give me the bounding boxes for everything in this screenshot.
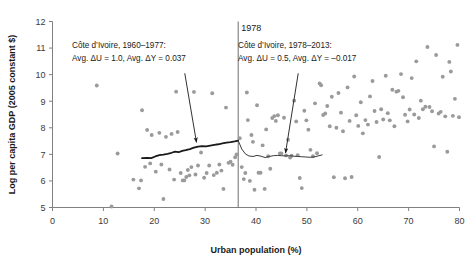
- scatter-point: [235, 152, 239, 156]
- y-tick-label-6: 6: [40, 176, 45, 186]
- scatter-point: [255, 103, 259, 107]
- x-tick-label-10: 10: [98, 216, 108, 226]
- scatter-point: [154, 170, 158, 174]
- scatter-point: [210, 91, 214, 95]
- x-tick-label-40: 40: [251, 216, 261, 226]
- scatter-point: [294, 119, 298, 123]
- scatter-point: [412, 113, 416, 117]
- scatter-point: [309, 148, 313, 152]
- scatter-point: [319, 83, 323, 87]
- scatter-point: [449, 70, 453, 74]
- scatter-point: [116, 152, 120, 156]
- scatter-point: [447, 60, 451, 64]
- scatter-point: [276, 113, 280, 117]
- scatter-point: [268, 167, 272, 171]
- scatter-point: [306, 128, 310, 132]
- scatter-point: [140, 108, 144, 112]
- scatter-point: [343, 176, 347, 180]
- scatter-point: [361, 131, 365, 135]
- scatter-point: [392, 124, 396, 128]
- scatter-point: [139, 178, 143, 182]
- scatter-point: [406, 119, 410, 123]
- scatter-point: [251, 140, 255, 144]
- scatter-point: [243, 171, 247, 175]
- scatter-point: [445, 150, 449, 154]
- scatter-point: [202, 176, 206, 180]
- scatter-point: [373, 109, 377, 113]
- scatter-point: [157, 131, 161, 135]
- right-annotation-arrow: [286, 73, 299, 153]
- scatter-point: [110, 205, 114, 209]
- scatter-point: [414, 59, 418, 63]
- scatter-point: [187, 173, 191, 177]
- scatter-point: [410, 76, 414, 80]
- scatter-point: [145, 128, 149, 132]
- scatter-point: [159, 163, 163, 167]
- scatter-point: [381, 118, 385, 122]
- scatter-point: [143, 165, 147, 169]
- scatter-point: [205, 171, 209, 175]
- scatter-point: [280, 152, 284, 156]
- scatter-point: [453, 97, 457, 101]
- scatter-point: [341, 129, 345, 133]
- x-tick-label-20: 20: [149, 216, 159, 226]
- scatter-point: [263, 187, 267, 191]
- scatter-point: [298, 176, 302, 180]
- scatter-point: [168, 168, 172, 172]
- scatter-point: [131, 178, 135, 182]
- x-tick-label-70: 70: [404, 216, 414, 226]
- scatter-point: [315, 151, 319, 155]
- divider-label-1978: 1978: [241, 23, 261, 33]
- scatter-point: [261, 143, 265, 147]
- scatter-point: [248, 179, 252, 183]
- scatter-point: [443, 114, 447, 118]
- scatter-point: [336, 91, 340, 95]
- scatter-point: [238, 136, 242, 140]
- scatter-point: [356, 124, 360, 128]
- scatter-point: [426, 45, 430, 49]
- scatter-point: [434, 53, 438, 57]
- scatter-point: [240, 165, 244, 169]
- scatter-point: [164, 135, 168, 139]
- scatter-point: [328, 124, 332, 128]
- scatter-point: [346, 85, 350, 89]
- scatter-chart: 5678910111201020304050607080Urban popula…: [0, 0, 466, 261]
- right-annotation-line1: Côte d’Ivoire, 1978–2013:: [238, 41, 332, 50]
- right-annotation-line2: Avg. ΔU = 0.5, Avg. ΔY = –0.017: [238, 54, 357, 63]
- scatter-point: [282, 116, 286, 120]
- scatter-point: [417, 116, 421, 120]
- scatter-point: [224, 106, 228, 110]
- y-tick-label-10: 10: [35, 70, 45, 80]
- scatter-point: [272, 114, 276, 118]
- scatter-point: [176, 130, 180, 134]
- y-tick-label-9: 9: [40, 97, 45, 107]
- scatter-point: [274, 119, 278, 123]
- scatter-point: [428, 105, 432, 109]
- scatter-point: [217, 163, 221, 167]
- scatter-point: [95, 84, 99, 88]
- x-tick-label-80: 80: [454, 216, 464, 226]
- scatter-point: [182, 178, 186, 182]
- scatter-point: [408, 108, 412, 112]
- scatter-point: [161, 197, 165, 201]
- y-tick-label-8: 8: [40, 123, 45, 133]
- scatter-point: [172, 178, 176, 182]
- x-tick-label-60: 60: [353, 216, 363, 226]
- scatter-point: [366, 123, 370, 127]
- scatter-point: [441, 75, 445, 79]
- scatter-point: [148, 161, 152, 165]
- scatter-point: [352, 75, 356, 79]
- scatter-point: [246, 118, 250, 122]
- scatter-points-group: [95, 43, 461, 208]
- x-axis-title: Urban population (%): [211, 245, 302, 255]
- scatter-point: [219, 169, 223, 173]
- scatter-point: [354, 113, 358, 117]
- scatter-point: [186, 168, 190, 172]
- scatter-point: [313, 101, 317, 105]
- scatter-point: [215, 171, 219, 175]
- y-axis-title: Log per capita GDP (2005 constant $): [7, 35, 17, 194]
- y-tick-label-11: 11: [36, 43, 45, 53]
- scatter-point: [390, 88, 394, 92]
- trendline-trend-1960-1977: [142, 141, 238, 159]
- scatter-point: [253, 188, 257, 192]
